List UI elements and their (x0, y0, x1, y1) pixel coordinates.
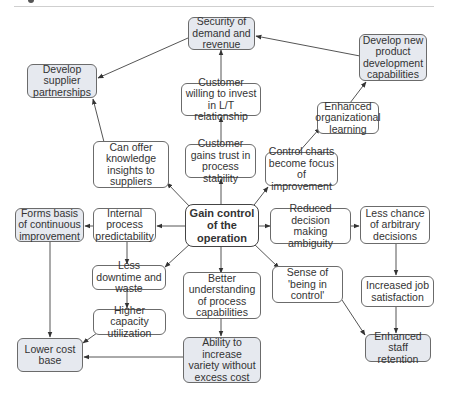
node-security-of-demand: Security of demand and revenue (188, 17, 255, 50)
node-reduced-ambiguity: Reduced decision making ambiguity (270, 208, 351, 244)
node-label: Lower cost base (20, 344, 80, 367)
node-better-understanding: Better understanding of process capabili… (183, 272, 261, 319)
node-develop-new-product: Develop new product development capabili… (359, 34, 427, 81)
node-lower-cost-base: Lower cost base (17, 338, 83, 372)
node-capacity-utilization: Higher capacity utilization (93, 309, 166, 335)
node-staff-retention: Enhanced staff retention (365, 334, 431, 362)
edge-security-supplier (98, 38, 188, 78)
node-control-charts: Control charts become focus of improveme… (265, 152, 338, 186)
node-knowledge-insights: Can offer knowledge insights to supplier… (93, 141, 169, 188)
edge-capacity-lowercost (83, 333, 97, 343)
node-label: Higher capacity utilization (96, 305, 163, 340)
node-label: Ability to increase variety without exce… (186, 337, 258, 383)
node-label: Control charts become focus of improveme… (268, 146, 335, 192)
node-increase-variety: Ability to increase variety without exce… (183, 337, 261, 383)
node-label: Better understanding of process capabili… (186, 273, 258, 319)
node-gain-control: Gain control of the operation (185, 204, 259, 247)
node-arbitrary-decisions: Less chance of arbitrary decisions (360, 206, 430, 244)
node-job-satisfaction: Increased job satisfaction (361, 276, 434, 307)
node-label: Customer gains trust in process stabilit… (188, 138, 253, 184)
node-label: Can offer knowledge insights to supplier… (96, 142, 166, 188)
node-label: Sense of 'being in control' (275, 267, 340, 302)
node-customer-trust: Customer gains trust in process stabilit… (185, 144, 256, 178)
node-customer-invest: Customer willing to invest in L/T relati… (181, 83, 261, 116)
node-continuous-improvement: Forms basis of continuous improvement (15, 208, 84, 242)
node-org-learning: Enhanced organizational learning (317, 102, 379, 134)
node-label: Develop supplier partnerships (30, 64, 94, 99)
node-label: Reduced decision making ambiguity (273, 203, 348, 249)
node-sense-of-control: Sense of 'being in control' (272, 266, 343, 303)
node-label: Increased job satisfaction (364, 280, 431, 303)
node-label: Customer willing to invest in L/T relati… (184, 77, 258, 123)
edge-newproduct-security (256, 36, 360, 56)
node-develop-supplier: Develop supplier partnerships (27, 64, 97, 98)
node-label: Internal process predictability (95, 208, 153, 243)
node-label: Develop new product development capabili… (362, 35, 424, 81)
node-label: Gain control of the operation (188, 207, 256, 245)
node-label: Less downtime and waste (95, 260, 163, 295)
node-process-predictability: Internal process predictability (93, 208, 156, 242)
node-less-downtime: Less downtime and waste (92, 265, 166, 290)
edge-knowledge-supplier (93, 99, 104, 142)
node-label: Enhanced staff retention (368, 331, 428, 366)
edge-sense-retention (342, 300, 365, 335)
node-label: Security of demand and revenue (191, 16, 252, 51)
node-label: Forms basis of continuous improvement (18, 208, 81, 243)
node-label: Less chance of arbitrary decisions (363, 208, 427, 243)
node-label: Enhanced organizational learning (315, 101, 380, 136)
edge-core-downtime (165, 243, 191, 267)
